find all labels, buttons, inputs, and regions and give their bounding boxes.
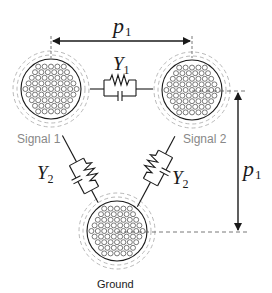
admittance-y1 [90, 75, 153, 101]
admittance-label-y1: Y1 [113, 53, 130, 77]
conductor-boundary [21, 59, 81, 119]
horizontal-dimension: p1 [51, 13, 192, 58]
admittance-label-y2-left: Y2 [37, 162, 54, 186]
conductor-ground [79, 193, 155, 269]
conductor-label-signal1: Signal 1 [17, 132, 61, 146]
conductor-label-ground: Ground [97, 278, 134, 290]
conductor-boundary [87, 201, 147, 261]
conductor-signal2 [154, 52, 230, 128]
dimension-label-horizontal: p1 [111, 13, 132, 39]
conductor-signal1 [13, 51, 89, 127]
admittance-label-y2-right: Y2 [172, 167, 189, 191]
conductor-label-signal2: Signal 2 [183, 132, 227, 146]
conductor-boundary [162, 60, 222, 120]
conductor-diagram: p1 p1 Y1 Y2 [0, 0, 272, 293]
dimension-label-vertical: p1 [241, 156, 262, 182]
